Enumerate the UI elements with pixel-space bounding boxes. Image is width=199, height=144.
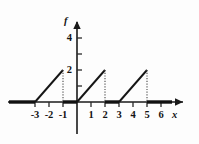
y-tick-label-4: 4 — [60, 33, 72, 44]
sawtooth-function-figure: 4 2 f -3 -2 -1 1 2 3 4 5 6 x — [0, 0, 199, 144]
x-axis-arrowhead — [175, 98, 183, 106]
y-axis-label: f — [64, 16, 68, 27]
x-axis-label: x — [172, 110, 177, 121]
x-tick-label-6: 6 — [153, 110, 169, 121]
sawtooth-ramps — [35, 70, 147, 102]
plot-canvas — [0, 0, 199, 144]
y-axis-arrowhead — [73, 21, 80, 29]
y-tick-label-2: 2 — [60, 65, 72, 76]
x-tick-label--1: -1 — [55, 110, 71, 121]
ramp-3 — [119, 70, 147, 102]
ramp-1 — [35, 70, 63, 102]
